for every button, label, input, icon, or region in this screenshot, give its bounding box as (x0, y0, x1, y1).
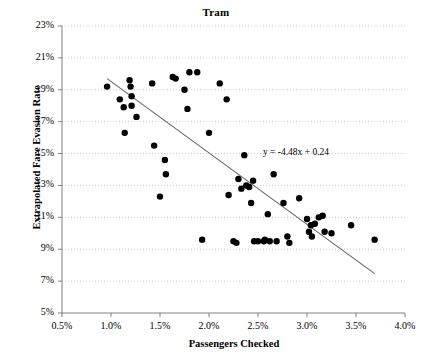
data-point (199, 236, 205, 242)
data-point (273, 238, 279, 244)
data-point (172, 75, 178, 81)
x-axis-tick-label: 4.0% (382, 320, 428, 331)
y-axis-tick-label: 13% (14, 178, 54, 189)
x-axis-tick-label: 0.5% (39, 320, 85, 331)
data-point (312, 221, 318, 227)
y-axis-tick-label: 17% (14, 115, 54, 126)
data-point (223, 96, 229, 102)
data-point (241, 152, 247, 158)
data-point (319, 213, 325, 219)
data-point (157, 193, 163, 199)
data-point (280, 200, 286, 206)
data-point (133, 114, 139, 120)
y-axis-tick-label: 23% (14, 19, 54, 30)
y-axis-tick-label: 21% (14, 51, 54, 62)
data-point (265, 211, 271, 217)
data-point (255, 238, 261, 244)
chart-container: Tram Extrapolated Fare Evasion Rate Pass… (0, 0, 432, 364)
data-point (250, 177, 256, 183)
x-axis-tick-label: 1.0% (88, 320, 134, 331)
data-point (304, 216, 310, 222)
y-axis-tick-label: 11% (14, 210, 54, 221)
y-axis-tick-label: 15% (14, 147, 54, 158)
data-point (162, 157, 168, 163)
data-point (328, 230, 334, 236)
data-point (248, 200, 254, 206)
data-point (121, 104, 127, 110)
x-axis-tick-label: 3.0% (284, 320, 330, 331)
data-point (122, 130, 128, 136)
data-points (104, 69, 378, 246)
trendline-equation-label: y = -4.48x + 0.24 (263, 147, 329, 157)
x-axis-tick-label: 2.0% (186, 320, 232, 331)
data-point (267, 238, 273, 244)
x-axis-tick-label: 2.5% (235, 320, 281, 331)
data-point (128, 103, 134, 109)
data-point (348, 222, 354, 228)
data-point (284, 233, 290, 239)
data-point (217, 80, 223, 86)
data-point (163, 171, 169, 177)
x-axis-tick-label: 3.5% (333, 320, 379, 331)
data-point (194, 69, 200, 75)
y-axis-tick-label: 7% (14, 274, 54, 285)
data-point (127, 83, 133, 89)
data-point (128, 93, 134, 99)
x-axis-title: Passengers Checked (62, 338, 406, 349)
data-point (296, 195, 302, 201)
data-point (225, 192, 231, 198)
data-point (309, 233, 315, 239)
data-point (181, 87, 187, 93)
data-point (206, 130, 212, 136)
data-point (246, 184, 252, 190)
data-point (235, 176, 241, 182)
data-point (184, 106, 190, 112)
trendline (107, 79, 375, 274)
data-point (117, 96, 123, 102)
plot-area (0, 0, 432, 364)
data-point (151, 142, 157, 148)
data-point (270, 171, 276, 177)
y-axis-tick-label: 9% (14, 242, 54, 253)
data-point (126, 77, 132, 83)
y-axis-tick-label: 19% (14, 83, 54, 94)
data-point (104, 83, 110, 89)
axes (58, 26, 405, 317)
data-point (371, 236, 377, 242)
data-point (321, 228, 327, 234)
y-axis-tick-label: 5% (14, 306, 54, 317)
data-point (149, 80, 155, 86)
data-point (286, 240, 292, 246)
data-point (233, 240, 239, 246)
x-axis-tick-label: 1.5% (137, 320, 183, 331)
data-point (186, 69, 192, 75)
